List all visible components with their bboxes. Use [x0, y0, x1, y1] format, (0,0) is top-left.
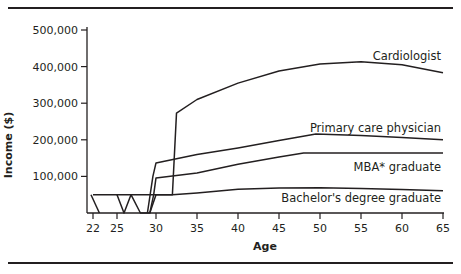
x-tick-label: 55	[354, 222, 368, 235]
x-tick-label: 45	[272, 222, 286, 235]
series-label: Primary care physician	[310, 121, 441, 135]
x-tick-label: 60	[395, 222, 409, 235]
x-tick-label: 40	[231, 222, 245, 235]
y-tick-label: 300,000	[33, 97, 79, 110]
x-tick-label: 22	[86, 222, 100, 235]
series-label: Bachelor's degree graduate	[281, 191, 441, 205]
series-line-physician-training-school-years-	[91, 195, 99, 213]
x-tick-label: 35	[190, 222, 204, 235]
y-axis-title: Income ($)	[2, 100, 18, 190]
x-tick-label: 50	[313, 222, 327, 235]
x-tick-label: 30	[149, 222, 163, 235]
y-tick-label: 200,000	[33, 134, 79, 147]
series-label: Cardiologist	[373, 49, 442, 63]
y-tick-label: 100,000	[33, 170, 79, 183]
bottom-rule	[8, 262, 453, 264]
y-tick-label: 400,000	[33, 61, 79, 74]
x-tick-label: 25	[110, 222, 124, 235]
series-label: MBA* graduate	[354, 160, 441, 174]
x-tick-label: 65	[436, 222, 450, 235]
x-axis-title: Age	[253, 240, 277, 253]
y-tick-label: 500,000	[33, 24, 79, 37]
income-by-age-line-chart: 100,000200,000300,000400,000500,00022253…	[0, 0, 461, 262]
